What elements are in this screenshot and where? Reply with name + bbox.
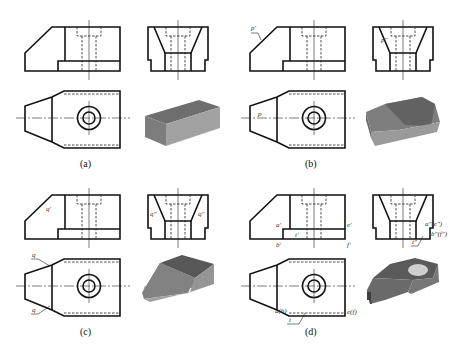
label-f-prime: f'	[347, 241, 351, 249]
label-q-upper: q	[32, 251, 36, 259]
front-view	[250, 188, 345, 248]
front-view	[25, 188, 120, 248]
label-q-lower: q	[32, 306, 36, 314]
side-view	[148, 188, 208, 248]
hole-opening	[408, 264, 428, 276]
leader-q-upper	[31, 259, 50, 266]
label-q-prime: q'	[46, 205, 52, 213]
panel-c: q' q" q" q q (c)	[16, 188, 214, 338]
top-view	[16, 91, 130, 148]
front-view	[25, 20, 120, 80]
caption-a: (a)	[80, 158, 91, 170]
caption-c: (c)	[80, 326, 91, 338]
caption-b: (b)	[305, 158, 317, 170]
solid-model-chamfered	[366, 97, 440, 146]
label-p-prime: p'	[250, 24, 257, 32]
label-p: p	[257, 110, 262, 118]
side-view	[373, 188, 433, 248]
leader-p-prime	[251, 33, 261, 40]
label-q-double-prime-left: q"	[150, 210, 157, 218]
side-view	[148, 20, 208, 80]
side-view	[373, 20, 433, 80]
solid-model-with-hole	[367, 258, 439, 304]
label-e-prime: e'	[347, 221, 352, 229]
label-p-double-prime: p"	[380, 36, 388, 44]
top-view	[241, 259, 355, 316]
label-a-prime: a'	[276, 221, 282, 229]
label-a-b: a(b)	[275, 307, 287, 315]
panel-a: (a)	[16, 20, 220, 170]
solid-model-chamfered-sides	[142, 255, 214, 302]
orthographic-projection-figure: (a) p' p" p (b) q' q" q" q q	[0, 0, 465, 361]
label-e-f: e(f)	[347, 308, 357, 316]
label-a-e-double-prime: a"(e")	[425, 220, 443, 228]
solid-model-box	[145, 100, 220, 146]
label-b-prime: b'	[276, 241, 282, 249]
top-view	[241, 91, 355, 148]
panel-d: a' b' t' e' f' a"(e") b"(f") t" a(b) e(f…	[241, 188, 448, 338]
label-q-double-prime-right: q"	[198, 210, 205, 218]
front-view	[250, 20, 345, 80]
caption-d: (d)	[305, 326, 317, 338]
label-t-prime: t'	[295, 231, 299, 239]
panel-b: p' p" p (b)	[241, 20, 440, 170]
label-t: t	[289, 316, 292, 324]
label-b-f-double-prime: b"(f")	[431, 230, 448, 238]
label-t-double-prime: t"	[412, 238, 417, 246]
